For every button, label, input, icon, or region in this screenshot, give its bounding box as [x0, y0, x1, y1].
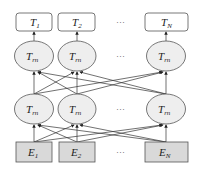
hidden-layer-bottom: Trn Trn ··· Trn: [15, 94, 186, 124]
hidden-bottom-ellipsis: ···: [116, 104, 125, 114]
hidden-connections: [34, 72, 166, 94]
input-connections: [34, 125, 166, 142]
diagram-canvas: T1 T2 ··· TN Trn Trn ··· Trn Trn Trn ···…: [0, 0, 202, 172]
output-layer: T1 T2 ··· TN: [16, 13, 188, 31]
output-connections: [34, 32, 166, 41]
hidden-top-ellipsis: ···: [116, 51, 125, 61]
output-ellipsis: ···: [116, 17, 125, 27]
input-ellipsis: ···: [116, 147, 125, 157]
hidden-layer-top: Trn Trn ··· Trn: [15, 41, 186, 71]
input-layer: E1 E2 ··· EN: [16, 142, 188, 162]
